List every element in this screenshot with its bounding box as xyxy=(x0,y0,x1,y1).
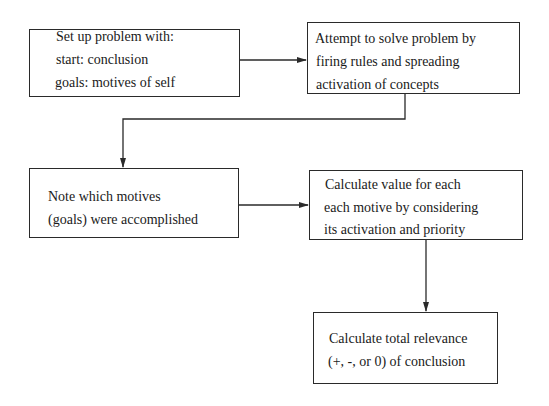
node-text: Calculate total relevance xyxy=(329,327,467,350)
node-note: Note which motives (goals) were accompli… xyxy=(29,168,239,238)
node-text: activation of concepts xyxy=(316,73,439,96)
node-setup: Set up problem with: start: conclusion g… xyxy=(29,29,240,97)
node-text: (+, -, or 0) of conclusion xyxy=(328,350,465,373)
node-total: Calculate total relevance (+, -, or 0) o… xyxy=(313,312,498,384)
arrow-solve-to-note xyxy=(123,94,405,167)
node-text: each motive by considering xyxy=(324,196,478,219)
node-text: goals: motives of self xyxy=(55,71,175,94)
node-text: Note which motives xyxy=(48,185,161,208)
node-text: Attempt to solve problem by xyxy=(315,27,476,50)
node-solve: Attempt to solve problem by firing rules… xyxy=(307,22,520,94)
node-value: Calculate value for each each motive by … xyxy=(309,170,523,240)
node-text: Set up problem with: xyxy=(56,25,174,48)
node-text: its activation and priority xyxy=(324,218,465,241)
node-text: (goals) were accomplished xyxy=(48,208,198,231)
node-text: Calculate value for each xyxy=(325,173,461,196)
node-text: start: conclusion xyxy=(56,48,148,71)
node-text: firing rules and spreading xyxy=(316,50,459,73)
